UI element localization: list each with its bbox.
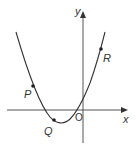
label-y: y [74, 5, 82, 17]
y-axis-arrow-icon [80, 11, 86, 18]
point-p [31, 84, 35, 88]
label-r: R [103, 52, 111, 64]
parabola-curve [16, 32, 105, 123]
label-x: x [122, 113, 129, 125]
label-p: P [24, 88, 32, 100]
point-q [52, 118, 56, 122]
label-origin: O [75, 112, 83, 123]
label-q: Q [44, 125, 53, 137]
point-r [99, 47, 103, 51]
parabola-diagram: y x O P Q R [0, 0, 138, 157]
